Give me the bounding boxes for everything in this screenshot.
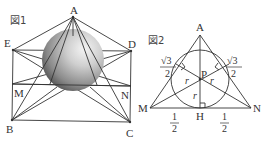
label-M-fig2: M: [138, 102, 148, 114]
label-M-fig1: M: [14, 87, 24, 99]
fraction-left-lower: 1 2: [170, 111, 179, 134]
label-A-fig1: A: [70, 4, 78, 16]
svg-text:√3: √3: [227, 55, 238, 66]
edge-BC: [12, 120, 130, 122]
edge-DC: [130, 51, 131, 122]
label-C: C: [126, 127, 133, 139]
label-A-fig2: A: [196, 21, 204, 33]
label-r-left: r: [185, 75, 189, 86]
segment-M-to-tangent: [150, 64, 229, 108]
right-angle-right: [215, 63, 219, 70]
figure-1-title: 図1: [10, 15, 26, 26]
figure-1: [12, 17, 131, 122]
label-B: B: [6, 123, 13, 135]
label-r-right: r: [210, 75, 214, 86]
svg-text:1: 1: [222, 111, 227, 122]
segment-N-to-tangent: [176, 64, 251, 108]
geometry-figures: 図1 A E D M N B C 図2 A M N P H r r r √3 2…: [0, 0, 266, 143]
svg-text:2: 2: [222, 123, 227, 134]
svg-text:2: 2: [172, 123, 177, 134]
label-N-fig2: N: [253, 102, 261, 114]
svg-text:1: 1: [172, 111, 177, 122]
figure-2-title: 図2: [148, 35, 164, 46]
label-E: E: [4, 37, 11, 49]
label-r-bottom: r: [193, 90, 197, 101]
svg-text:2: 2: [165, 68, 170, 79]
fraction-left-upper: √3 2: [160, 55, 176, 79]
svg-text:√3: √3: [161, 55, 172, 66]
label-D: D: [128, 38, 136, 50]
label-H: H: [196, 110, 204, 122]
svg-text:2: 2: [231, 68, 236, 79]
fraction-right-lower: 1 2: [220, 111, 229, 134]
edge-EB: [12, 50, 13, 120]
sphere: [42, 29, 104, 91]
label-P: P: [201, 68, 207, 80]
label-N-fig1: N: [121, 89, 129, 101]
